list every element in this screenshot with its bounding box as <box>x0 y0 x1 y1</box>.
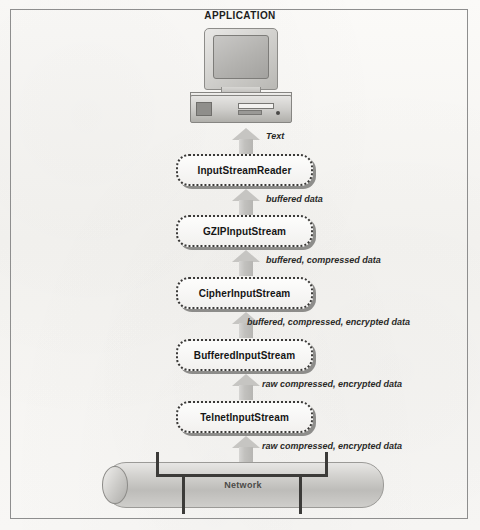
arrow-shaft <box>239 261 253 276</box>
arrow-shaft <box>239 385 253 400</box>
page-title: APPLICATION <box>0 10 480 21</box>
floppy-drive-slot <box>238 103 274 109</box>
flow-arrow-up-icon <box>232 250 260 276</box>
flow-arrow-up-icon <box>232 374 260 400</box>
network-tap-right-riser <box>325 452 328 477</box>
flow-label: Text <box>266 131 284 141</box>
flow-label: buffered, compressed, encrypted data <box>247 317 410 327</box>
arrow-shaft <box>239 139 253 154</box>
stream-box-label: TelnetInputStream <box>200 412 289 423</box>
case-vent <box>196 102 212 116</box>
arrow-shaft <box>239 200 253 215</box>
flow-label: raw compressed, encrypted data <box>262 379 402 389</box>
diagram-page: APPLICATION Text InputStreamReader <box>0 0 480 530</box>
stream-box-label: BufferedInputStream <box>194 350 295 361</box>
stream-box-telnetinputstream[interactable]: TelnetInputStream <box>176 401 313 433</box>
drive-slot-secondary <box>238 110 262 115</box>
stream-box-cipherinputstream[interactable]: CipherInputStream <box>176 277 313 309</box>
flow-arrow-up-icon <box>232 189 260 215</box>
stream-box-label: CipherInputStream <box>199 288 291 299</box>
stream-box-inputstreamreader[interactable]: InputStreamReader <box>176 154 313 186</box>
stream-box-label: GZIPInputStream <box>203 226 286 237</box>
monitor-screen <box>213 35 269 79</box>
monitor-icon <box>204 28 278 90</box>
network-label: Network <box>104 480 382 490</box>
flow-arrow-up-icon <box>232 128 260 154</box>
stream-box-gzipinputstream[interactable]: GZIPInputStream <box>176 215 313 247</box>
flow-label: buffered, compressed data <box>266 255 381 265</box>
stream-box-label: InputStreamReader <box>198 165 292 176</box>
power-led-icon <box>276 111 280 115</box>
diagram-canvas: APPLICATION Text InputStreamReader <box>0 0 480 530</box>
desktop-computer-icon <box>188 28 292 128</box>
flow-label: raw compressed, encrypted data <box>262 441 402 451</box>
stream-box-bufferedinputstream[interactable]: BufferedInputStream <box>176 339 313 371</box>
flow-label: buffered data <box>266 194 323 204</box>
